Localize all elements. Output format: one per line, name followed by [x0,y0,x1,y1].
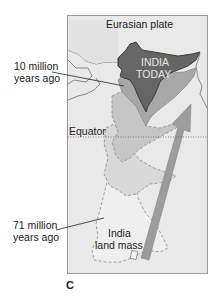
india-landmass-label-line1: India [108,227,131,239]
panel-label: C [66,279,74,291]
eurasian-plate-label: Eurasian plate [106,18,173,30]
arrow-tail-marker [130,250,138,259]
equator-label: Equator [69,125,106,137]
seventy-one-million-years-label-line2: years ago [13,231,59,243]
india-today-label-line2: TODAY [136,68,171,80]
india-plate-drift-diagram [0,0,220,299]
india-landmass-label-line2: land mass [95,239,143,251]
ten-million-years-label-line1: 10 million [14,60,58,72]
india-today-label-line1: INDIA [141,56,169,68]
ten-million-years-label-line2: years ago [14,72,60,84]
seventy-one-million-years-label-line1: 71 million [13,219,57,231]
